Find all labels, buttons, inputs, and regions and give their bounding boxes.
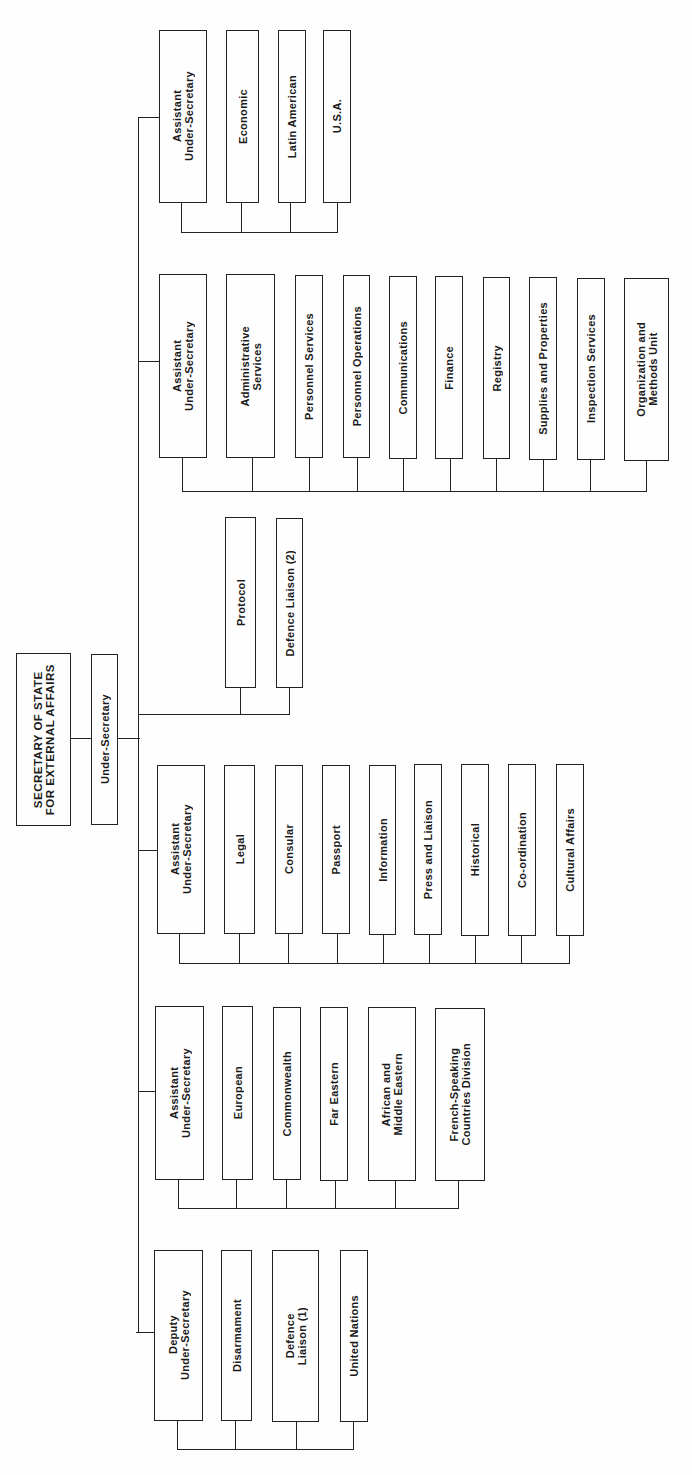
group4-tick: [236, 1180, 237, 1208]
group0-tick: [181, 203, 182, 232]
unit-label: Latin American: [286, 75, 298, 158]
group1-tick: [590, 460, 591, 491]
group0-bar: [181, 232, 338, 233]
unit-communications-box: Communications: [389, 276, 417, 459]
group1-head-label: Assistant Under-Secretary: [171, 321, 195, 411]
unit-label: European: [232, 1066, 244, 1119]
unit-personnel-services-box: Personnel Services: [295, 275, 323, 458]
unit-label: Finance: [443, 346, 455, 390]
group0-tick: [337, 203, 338, 232]
group1-tick: [646, 461, 647, 491]
group3-tick: [521, 936, 522, 963]
group3-tick: [569, 936, 570, 963]
group2-bar: [138, 714, 290, 715]
unit-administrative-services-box: Administrative Services: [226, 274, 275, 458]
unit-label: Co-ordination: [516, 812, 528, 888]
unit-press-and-liaison-box: Press and Liaison: [414, 764, 442, 935]
unit-label: Disarmament: [231, 1299, 243, 1372]
root-connector: [70, 738, 92, 739]
unit-organization-and-methods-box: Organization and Methods Unit: [624, 278, 669, 461]
unit-label: Defence Liaison (2): [284, 550, 296, 657]
group3-tick: [383, 935, 384, 963]
unit-consular-box: Consular: [275, 765, 303, 934]
group1-tick: [403, 459, 404, 491]
unit-label: Supplies and Properties: [537, 302, 549, 435]
group1-tick: [309, 458, 310, 491]
group5-tick: [296, 1422, 297, 1449]
group5-bar: [177, 1449, 354, 1450]
main-spine: [138, 117, 139, 1333]
group4-bar: [178, 1208, 459, 1209]
group0-tick: [241, 203, 242, 232]
unit-united-nations-box: United Nations: [340, 1250, 368, 1422]
unit-information-box: Information: [369, 765, 396, 935]
group5-head-label: Deputy Under-Secretary: [167, 1290, 191, 1380]
unit-label: Legal: [234, 834, 246, 864]
group5-tick: [353, 1422, 354, 1449]
unit-historical-box: Historical: [461, 764, 489, 936]
unit-passport-box: Passport: [322, 765, 350, 934]
under-secretary-box: Under-Secretary: [91, 654, 118, 825]
unit-french-speaking-countries-box: French-Speaking Countries Division: [435, 1008, 485, 1181]
unit-label: U.S.A.: [331, 99, 343, 133]
group4-branch: [138, 1091, 155, 1092]
unit-label: Defence Liaison (1): [284, 1307, 308, 1365]
group4-tick: [458, 1181, 459, 1208]
secretary-of-state-box: SECRETARY OF STATE FOR EXTERNAL AFFAIRS: [16, 653, 71, 826]
unit-commonwealth-box: Commonwealth: [273, 1007, 301, 1180]
unit-personnel-operations-box: Personnel Operations: [343, 275, 370, 458]
group3-tick: [475, 936, 476, 963]
unit-label: Press and Liaison: [422, 800, 434, 899]
unit-finance-box: Finance: [435, 276, 463, 459]
unit-label: Communications: [397, 321, 409, 414]
unit-inspection-services-box: Inspection Services: [577, 278, 605, 460]
unit-label: Commonwealth: [281, 1051, 293, 1137]
under-secretary-connector: [117, 738, 140, 739]
unit-label: United Nations: [348, 1295, 360, 1377]
unit-label: Economic: [237, 89, 249, 144]
unit-european-box: European: [222, 1006, 253, 1180]
secretary-of-state-label: SECRETARY OF STATE FOR EXTERNAL AFFAIRS: [32, 664, 56, 815]
group3-branch: [138, 850, 157, 851]
group1-bar: [182, 491, 647, 492]
unit-label: Passport: [330, 825, 342, 874]
unit-label: Consular: [283, 824, 295, 874]
group0-branch: [138, 117, 159, 118]
group3-tick: [337, 934, 338, 963]
group0-tick: [290, 203, 291, 232]
unit-label: Information: [377, 818, 389, 882]
group0-head-box: Assistant Under-Secretary: [159, 30, 207, 203]
group1-tick: [182, 458, 183, 491]
group1-tick: [543, 460, 544, 491]
group1-tick: [252, 458, 253, 491]
group5-head-box: Deputy Under-Secretary: [154, 1250, 203, 1421]
unit-label: Inspection Services: [585, 314, 597, 423]
unit-cultural-affairs-box: Cultural Affairs: [556, 764, 584, 936]
unit-label: Cultural Affairs: [564, 808, 576, 892]
unit-label: Historical: [469, 823, 481, 876]
unit-label: Administrative Services: [239, 326, 263, 407]
group1-head-box: Assistant Under-Secretary: [159, 274, 207, 458]
group3-tick: [429, 935, 430, 963]
group3-bar: [179, 963, 570, 964]
group3-tick: [239, 934, 240, 963]
group4-tick: [395, 1181, 396, 1208]
unit-usa-box: U.S.A.: [323, 30, 351, 203]
group5-branch: [136, 1332, 154, 1333]
group3-tick: [288, 934, 289, 963]
unit-label: French-Speaking Countries Division: [448, 1043, 472, 1146]
unit-label: Registry: [491, 345, 503, 391]
unit-african-and-middle-eastern-box: African and Middle Eastern: [368, 1007, 416, 1181]
group4-head-label: Assistant Under-Secretary: [168, 1048, 192, 1138]
unit-far-eastern-box: Far Eastern: [320, 1007, 348, 1181]
group5-tick: [177, 1421, 178, 1449]
group2-tick: [289, 688, 290, 714]
group3-head-box: Assistant Under-Secretary: [157, 765, 205, 934]
group4-head-box: Assistant Under-Secretary: [155, 1006, 204, 1180]
group4-tick: [335, 1181, 336, 1208]
unit-disarmament-box: Disarmament: [221, 1250, 252, 1421]
group3-tick: [179, 934, 180, 963]
group0-head-label: Assistant Under-Secretary: [171, 71, 195, 161]
group1-tick: [450, 459, 451, 491]
unit-label: Personnel Operations: [351, 306, 363, 426]
